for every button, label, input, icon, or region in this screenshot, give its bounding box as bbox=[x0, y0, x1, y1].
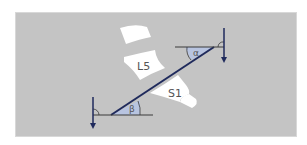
vertebra-l4-fragment bbox=[120, 25, 151, 44]
right-angle-arc-bottom bbox=[93, 109, 99, 115]
label-alpha: α bbox=[193, 48, 199, 58]
label-beta: β bbox=[129, 104, 135, 114]
label-l5: L5 bbox=[137, 60, 150, 73]
gravity-arrow-top bbox=[221, 28, 227, 63]
lumbosacral-angle-diagram: L5 S1 α β bbox=[0, 0, 307, 145]
label-s1: S1 bbox=[168, 87, 182, 100]
gravity-arrow-bottom bbox=[90, 97, 96, 129]
right-angle-arc-top bbox=[218, 42, 224, 47]
